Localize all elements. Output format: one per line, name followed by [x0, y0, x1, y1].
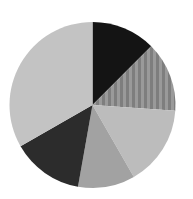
pie-chart	[0, 0, 193, 199]
pie-slices	[9, 22, 175, 188]
